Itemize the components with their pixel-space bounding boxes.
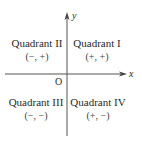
coordinate-plane-diagram: y x O Quadrant II (−, +) Quadrant I (+, … — [0, 0, 142, 156]
quadrant-i-signs: (+, +) — [70, 51, 124, 62]
quadrant-iii-label: Quadrant III — [7, 96, 65, 108]
quadrant-iv-label: Quadrant IV — [69, 96, 127, 108]
quadrant-i-label: Quadrant I — [70, 37, 124, 49]
quadrant-iii-signs: (−, −) — [7, 110, 65, 121]
y-axis-label: y — [72, 11, 76, 21]
axes-graphic — [0, 0, 142, 156]
x-axis-label: x — [129, 69, 133, 79]
quadrant-ii-signs: (−, +) — [10, 51, 64, 62]
quadrant-iv-signs: (+, −) — [69, 110, 127, 121]
origin-label: O — [55, 77, 62, 87]
quadrant-ii-label: Quadrant II — [10, 37, 64, 49]
